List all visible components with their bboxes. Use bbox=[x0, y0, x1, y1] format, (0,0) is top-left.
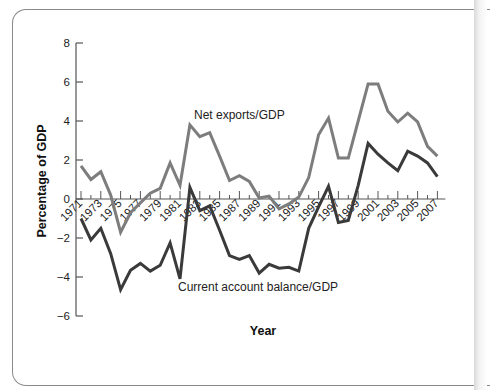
x-tick-label: 1987 bbox=[216, 197, 243, 224]
y-tick-label: 4 bbox=[64, 115, 71, 127]
x-tick-label: 2005 bbox=[394, 197, 421, 224]
y-tick-label: −4 bbox=[57, 271, 71, 283]
x-tick-label: 1977 bbox=[117, 197, 144, 224]
y-tick-label: 2 bbox=[64, 154, 70, 166]
y-axis-title: Percentage of GDP bbox=[35, 124, 49, 237]
x-tick-label: 2001 bbox=[355, 197, 382, 224]
x-tick-label: 2007 bbox=[414, 197, 441, 224]
x-tick-label: 2003 bbox=[375, 197, 402, 224]
x-axis-title: Year bbox=[250, 324, 277, 338]
y-tick-label: −2 bbox=[57, 232, 70, 244]
x-tick-label: 1989 bbox=[236, 197, 263, 224]
x-tick-label: 1981 bbox=[157, 197, 184, 224]
y-tick-label: 6 bbox=[64, 76, 70, 88]
y-tick-label: 8 bbox=[64, 37, 70, 49]
current-account-label: Current account balance/GDP bbox=[178, 280, 338, 294]
x-tick-label: 1993 bbox=[276, 197, 303, 224]
net-exports-label: Net exports/GDP bbox=[194, 108, 285, 122]
y-tick-label: −6 bbox=[57, 310, 70, 322]
